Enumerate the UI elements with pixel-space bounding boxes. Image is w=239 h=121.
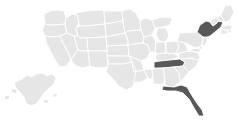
state-CT[interactable] <box>221 30 227 34</box>
state-AK[interactable] <box>4 73 57 106</box>
state-KS[interactable] <box>107 45 129 56</box>
state-ME[interactable] <box>221 5 234 22</box>
state-MN[interactable] <box>122 9 141 33</box>
state-MA[interactable] <box>221 25 232 30</box>
state-NY[interactable] <box>197 21 223 37</box>
state-NJ[interactable] <box>202 37 207 46</box>
state-FL[interactable] <box>162 85 204 116</box>
us-map-container <box>0 0 239 121</box>
state-NM[interactable] <box>88 51 108 68</box>
state-MI[interactable] <box>152 17 172 42</box>
state-WY[interactable] <box>76 24 106 38</box>
state-IA[interactable] <box>125 30 144 45</box>
state-RI[interactable] <box>228 30 231 33</box>
state-WA[interactable] <box>44 10 66 25</box>
state-IN[interactable] <box>155 42 166 54</box>
state-CO[interactable] <box>87 37 107 51</box>
us-map-svg <box>0 0 239 121</box>
